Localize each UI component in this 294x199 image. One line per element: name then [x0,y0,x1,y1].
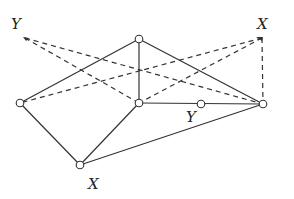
label-bottom: X [87,175,100,193]
label-top-left: Y [11,15,23,33]
edge-top-right [139,39,263,104]
dashed-edge-x-right [262,38,263,104]
edge-left-bottom [20,103,80,165]
label-top-right: X [256,15,269,33]
dashed-edges [20,38,263,104]
node-center [135,99,143,107]
edge-bottom-right [80,104,263,165]
graph-diagram: Y X X Y [0,0,294,199]
label-middle: Y [186,108,198,126]
node-bottom [76,161,84,169]
node-mid [197,100,205,108]
x-point-marker [256,37,263,41]
node-top [135,35,143,43]
node-right [259,100,267,108]
node-left [16,99,24,107]
